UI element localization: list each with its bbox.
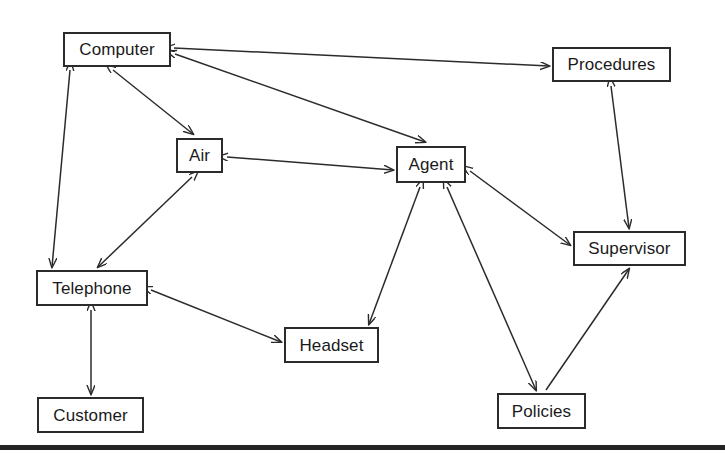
node-label-telephone: Telephone <box>52 280 131 297</box>
edge-agent-policies <box>447 187 536 390</box>
edge-computer-agent <box>175 54 425 142</box>
edge-air-agent <box>227 157 393 170</box>
node-label-agent: Agent <box>409 156 454 173</box>
node-label-air: Air <box>189 147 210 164</box>
edge-agent-headset <box>369 187 420 324</box>
node-label-headset: Headset <box>299 337 363 354</box>
node-headset[interactable]: Headset <box>284 327 379 363</box>
node-supervisor[interactable]: Supervisor <box>573 231 686 266</box>
node-label-procedures: Procedures <box>568 56 656 73</box>
bottom-rule <box>0 445 725 450</box>
node-customer[interactable]: Customer <box>37 397 144 433</box>
edge-policies-supervisor <box>546 269 629 390</box>
diagram-canvas: ComputerProceduresAirAgentSupervisorTele… <box>0 0 725 460</box>
edge-procedures-supervisor <box>611 86 629 228</box>
edge-agent-supervisor <box>470 171 570 245</box>
node-label-computer: Computer <box>79 41 154 58</box>
edge-telephone-headset <box>151 290 281 342</box>
node-procedures[interactable]: Procedures <box>552 47 671 82</box>
node-air[interactable]: Air <box>176 138 223 173</box>
edge-air-telephone <box>98 177 192 267</box>
edge-computer-telephone <box>52 70 70 267</box>
node-agent[interactable]: Agent <box>396 146 466 183</box>
node-telephone[interactable]: Telephone <box>36 270 148 306</box>
edge-computer-air <box>113 70 193 134</box>
node-label-customer: Customer <box>53 407 128 424</box>
node-computer[interactable]: Computer <box>63 32 171 67</box>
node-policies[interactable]: Policies <box>497 393 586 429</box>
node-label-supervisor: Supervisor <box>588 240 670 257</box>
edge-computer-procedures <box>174 48 549 66</box>
node-label-policies: Policies <box>512 403 571 420</box>
